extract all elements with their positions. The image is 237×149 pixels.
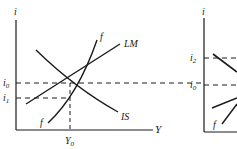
right-panel (204, 18, 237, 132)
right-f-label: f (213, 119, 217, 130)
right-rising-curve (212, 98, 237, 108)
y0-label: Y0 (65, 135, 75, 148)
i0-right-label: i0 (190, 79, 197, 92)
right-y-axis-label: i (202, 6, 205, 17)
f-top-label: f (100, 31, 104, 42)
x-axis-label: Y (155, 123, 163, 135)
left-panel (16, 20, 205, 130)
i2-label: i2 (190, 52, 197, 65)
i1-label: i1 (3, 92, 9, 105)
i0-label: i0 (3, 77, 10, 90)
f-bottom-label: f (40, 117, 44, 128)
is-curve (36, 50, 118, 112)
lm-label: LM (123, 38, 139, 49)
is-label: IS (120, 111, 129, 122)
left-y-axis-label: i (14, 6, 17, 17)
islm-diagram: i Y i0 i1 Y0 LM IS f f i i2 i0 f (0, 0, 237, 149)
right-f-curve (222, 104, 237, 124)
right-falling-curve (213, 54, 237, 72)
